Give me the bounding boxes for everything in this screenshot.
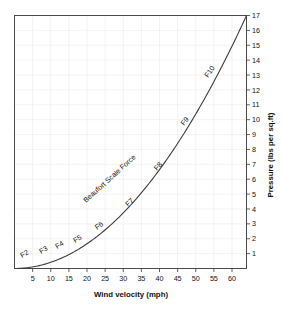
y-tick-label: 1 [252, 249, 256, 258]
y-tick-label: 4 [252, 205, 256, 214]
wind-pressure-chart: 51015202530354045505560 1234567891011121… [0, 0, 283, 312]
x-tick-label: 55 [210, 274, 218, 283]
y-tick-label: 12 [252, 86, 260, 95]
x-tick-label: 10 [47, 274, 55, 283]
x-tick-label: 35 [137, 274, 145, 283]
chart-figure: 51015202530354045505560 1234567891011121… [0, 0, 283, 312]
y-tick-label: 13 [252, 71, 260, 80]
x-tick-label: 40 [156, 274, 164, 283]
x-tick-label: 60 [228, 274, 236, 283]
y-tick-label: 7 [252, 160, 256, 169]
y-tick-label: 17 [252, 11, 260, 20]
x-tick-label: 30 [119, 274, 127, 283]
y-tick-label: 15 [252, 41, 260, 50]
y-tick-label: 8 [252, 145, 256, 154]
x-tick-label: 45 [174, 274, 182, 283]
y-tick-label: 9 [252, 130, 256, 139]
y-tick-label: 5 [252, 190, 256, 199]
y-tick-label: 2 [252, 234, 256, 243]
y-tick-label: 6 [252, 175, 256, 184]
y-tick-label: 10 [252, 115, 260, 124]
y-tick-label: 11 [252, 100, 259, 109]
y-tick-label: 3 [252, 219, 256, 228]
x-tick-label: 5 [31, 274, 35, 283]
x-tick-label: 25 [101, 274, 109, 283]
x-axis-title: Wind velocity (mph) [94, 290, 168, 299]
y-tick-label: 16 [252, 26, 260, 35]
x-tick-label: 50 [192, 274, 200, 283]
y-tick-label: 14 [252, 56, 260, 65]
y-axis-title: Pressure (lbs per sq.ft) [266, 112, 275, 197]
x-tick-label: 20 [83, 274, 91, 283]
x-tick-label: 15 [65, 274, 73, 283]
